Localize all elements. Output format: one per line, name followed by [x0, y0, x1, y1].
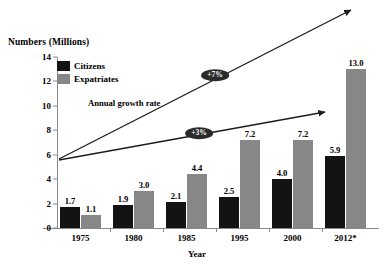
bar-expatriates-2000: 7.2 [293, 57, 313, 228]
bar-expatriates-2012: 13.0 [346, 57, 366, 228]
bar-rect [219, 197, 239, 228]
bar-value-label: 7.2 [298, 129, 309, 139]
bar-value-label: 2.1 [171, 191, 182, 201]
bar-rect [272, 179, 292, 228]
bar-rect [81, 215, 101, 228]
x-tick-label-1980: 1980 [125, 233, 143, 243]
bar-rect [240, 140, 260, 228]
bar-rect [293, 140, 313, 228]
legend-item-expatriates: Expatriates [57, 74, 119, 84]
legend: Citizens Expatriates [57, 61, 119, 87]
bar-value-label: 13.0 [348, 58, 363, 68]
growth-badge-expatriates: +7% [201, 69, 229, 81]
bar-group-1995: 2.57.2 [219, 57, 260, 228]
bar-rect [187, 174, 207, 228]
x-tick-mark [269, 228, 270, 232]
bar-group-1980: 1.93.0 [113, 57, 154, 228]
bar-citizens-1995: 2.5 [219, 57, 239, 228]
bar-value-label: 5.9 [330, 145, 341, 155]
bar-value-label: 1.9 [118, 194, 129, 204]
bar-value-label: 4.0 [277, 168, 288, 178]
annual-growth-rate-caption: Annual growth rate [88, 98, 160, 108]
bar-expatriates-1995: 7.2 [240, 57, 260, 228]
bar-citizens-2000: 4.0 [272, 57, 292, 228]
y-tick-mark-10 [53, 105, 57, 106]
bar-value-label: 1.7 [65, 196, 76, 206]
x-tick-label-2012: 2012* [334, 233, 357, 243]
x-tick-label-1975: 1975 [72, 233, 90, 243]
bar-expatriates-1980: 3.0 [134, 57, 154, 228]
bar-rect [166, 202, 186, 228]
y-tick-mark-2 [53, 203, 57, 204]
bar-rect [134, 191, 154, 228]
bar-value-label: 4.4 [192, 163, 203, 173]
y-tick-mark-0 [53, 228, 57, 229]
bar-rect [346, 69, 366, 228]
bar-chart-figure: Numbers (Millions) 02468101214 1.71.11.9… [0, 0, 385, 273]
x-axis-title: Year [188, 249, 206, 259]
x-tick-mark [163, 228, 164, 232]
legend-label-citizens: Citizens [74, 61, 105, 71]
legend-item-citizens: Citizens [57, 61, 119, 71]
bar-value-label: 3.0 [139, 180, 150, 190]
x-tick-label-1985: 1985 [178, 233, 196, 243]
x-tick-mark [216, 228, 217, 232]
y-tick-mark-14 [53, 57, 57, 58]
legend-swatch-citizens-icon [57, 61, 70, 71]
bar-rect [113, 205, 133, 228]
x-tick-mark [322, 228, 323, 232]
bar-expatriates-1985: 4.4 [187, 57, 207, 228]
bar-citizens-1985: 2.1 [166, 57, 186, 228]
bar-value-label: 2.5 [224, 186, 235, 196]
bar-group-2000: 4.07.2 [272, 57, 313, 228]
y-tick-mark-8 [53, 130, 57, 131]
y-axis-title: Numbers (Millions) [8, 37, 89, 47]
bar-rect [325, 156, 345, 228]
x-tick-mark [110, 228, 111, 232]
bar-value-label: 1.1 [86, 204, 97, 214]
y-tick-mark-4 [53, 179, 57, 180]
x-tick-label-2000: 2000 [284, 233, 302, 243]
y-tick-mark-6 [53, 154, 57, 155]
bar-citizens-2012: 5.9 [325, 57, 345, 228]
x-axis-line [43, 228, 379, 229]
bar-value-label: 7.2 [245, 129, 256, 139]
legend-label-expatriates: Expatriates [74, 74, 119, 84]
bar-rect [60, 207, 80, 228]
x-tick-label-1995: 1995 [231, 233, 249, 243]
legend-swatch-expatriates-icon [57, 74, 70, 84]
bar-group-2012: 5.913.0 [325, 57, 366, 228]
bar-group-1985: 2.14.4 [166, 57, 207, 228]
growth-badge-citizens: +3% [185, 127, 213, 139]
